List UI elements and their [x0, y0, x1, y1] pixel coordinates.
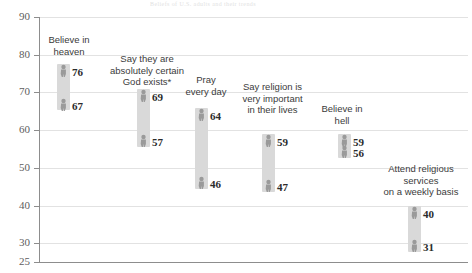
y-tick-label-50: 50: [6, 162, 30, 173]
marker-low-5: [408, 239, 421, 252]
tick-25: [34, 262, 39, 263]
y-tick-label-90: 90: [6, 11, 30, 22]
group-label-5: Attend religious services on a weekly ba…: [371, 163, 471, 198]
gridline-60: [39, 130, 468, 131]
group-label-0: Believe in heaven: [34, 34, 104, 57]
tick-50: [34, 168, 39, 169]
value-low-3: 47: [277, 182, 288, 193]
value-high-2: 64: [210, 111, 221, 122]
y-tick-label-70: 70: [6, 86, 30, 97]
y-tick-label-30: 30: [6, 237, 30, 248]
plot-area: 90 80 70 60 50 40 30 25 Believe in heave…: [39, 17, 468, 263]
value-low-2: 46: [210, 179, 221, 190]
marker-high-5: [408, 206, 421, 219]
marker-low-2: [195, 176, 208, 189]
x-axis-line: [39, 262, 468, 263]
value-low-4: 56: [353, 148, 364, 159]
chart-root: Beliefs of U.S. adults and their trends …: [0, 0, 472, 273]
group-label-4: Believe in hell: [307, 103, 377, 126]
marker-high-0: [57, 64, 70, 77]
value-low-0: 67: [72, 101, 83, 112]
value-high-1: 69: [152, 92, 163, 103]
chart-title-clipped: Beliefs of U.S. adults and their trends: [150, 1, 340, 8]
tick-60: [34, 130, 39, 131]
marker-high-2: [195, 108, 208, 121]
y-tick-label-80: 80: [6, 49, 30, 60]
tick-70: [34, 92, 39, 93]
marker-high-1: [137, 89, 150, 102]
tick-40: [34, 206, 39, 207]
y-tick-label-40: 40: [6, 200, 30, 211]
marker-low-1: [137, 134, 150, 147]
tick-30: [34, 243, 39, 244]
gridline-90: [39, 17, 468, 18]
marker-low-3: [262, 179, 275, 192]
value-low-5: 31: [423, 242, 434, 253]
value-high-0: 76: [72, 67, 83, 78]
marker-low-0: [57, 98, 70, 111]
value-high-3: 59: [277, 137, 288, 148]
y-tick-label-60: 60: [6, 124, 30, 135]
gridline-40: [39, 206, 468, 207]
marker-low-4: [338, 145, 351, 158]
gridline-30: [39, 243, 468, 244]
value-low-1: 57: [152, 137, 163, 148]
marker-high-3: [262, 134, 275, 147]
group-label-3: Say religion is very important in their …: [225, 81, 320, 116]
y-tick-label-25: 25: [6, 256, 30, 267]
tick-90: [34, 17, 39, 18]
value-high-5: 40: [423, 209, 434, 220]
